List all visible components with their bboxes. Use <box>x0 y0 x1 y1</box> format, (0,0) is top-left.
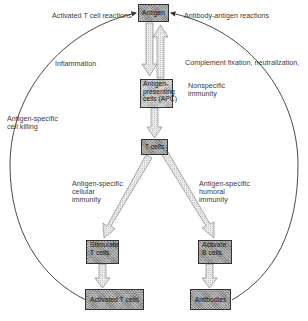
arrow-stimulate-to-activated <box>95 264 110 288</box>
label-cellular-immunity: Antigen-specific cellular immunity <box>72 180 123 205</box>
label-antibody-antigen-reactions: Antibody-antigen reactions <box>184 12 269 20</box>
diagram-connectors <box>0 0 308 321</box>
label-cell-killing-line2: cell killing <box>7 123 58 131</box>
label-humoral-immunity: Antigen-specific humoral immunity <box>199 180 250 205</box>
node-stimulate-line1: Stimulate <box>90 241 118 249</box>
label-nonspecific-line2: immunity <box>188 90 225 98</box>
node-activated-t-cells: Activated T cells <box>85 289 144 310</box>
node-apc-line3: cells (APC) <box>143 95 177 103</box>
node-activate-b-cells: Activate B cells <box>198 240 232 264</box>
node-antibodies: Antibodies <box>190 289 231 310</box>
label-cell-killing: Antigen-specific cell killing <box>7 115 58 131</box>
label-complement-fixation: Complement fixation, neutralization, <box>185 59 299 67</box>
node-stimulate-line2: T cells <box>90 249 110 257</box>
arrow-apc-to-tcells <box>147 108 162 138</box>
node-apc-line1: Antigen- <box>143 80 168 88</box>
node-antigen: Antigen <box>138 4 169 22</box>
label-activated-t-cell-reactions: Activated T cell reactions <box>52 12 132 20</box>
node-activateb-line2: B cells <box>202 249 222 257</box>
label-nonspecific-immunity: Nonspecific immunity <box>188 82 225 98</box>
arrow-apc-to-antigen <box>153 25 168 78</box>
label-inflammation: Inflammation <box>55 60 96 68</box>
arrow-activateb-to-antibodies <box>202 264 217 288</box>
label-humoral-line3: immunity <box>199 196 250 204</box>
curve-right-arc <box>171 13 298 300</box>
node-stimulate-t-cells: Stimulate T cells <box>86 240 119 264</box>
node-apc: Antigen- presenting cells (APC) <box>140 79 173 108</box>
node-t-cells: T cells <box>141 139 168 155</box>
node-activateb-line1: Activate <box>202 241 226 249</box>
label-cellular-line3: immunity <box>72 196 123 204</box>
arrow-antigen-to-apc <box>142 23 157 76</box>
node-apc-line2: presenting <box>143 88 175 96</box>
